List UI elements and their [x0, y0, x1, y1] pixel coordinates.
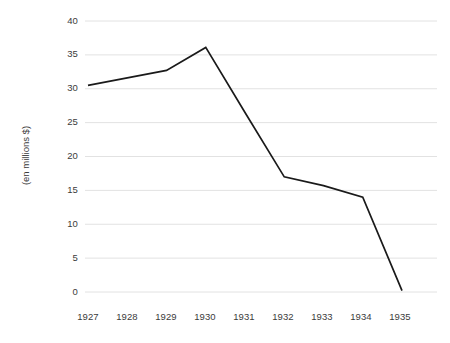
gridlines: [85, 21, 437, 292]
line-chart: (en millions $) 40 35 30 25 20 15 10 5 0…: [0, 0, 450, 343]
data-series-line: [88, 47, 402, 290]
plot-area: [0, 0, 450, 343]
